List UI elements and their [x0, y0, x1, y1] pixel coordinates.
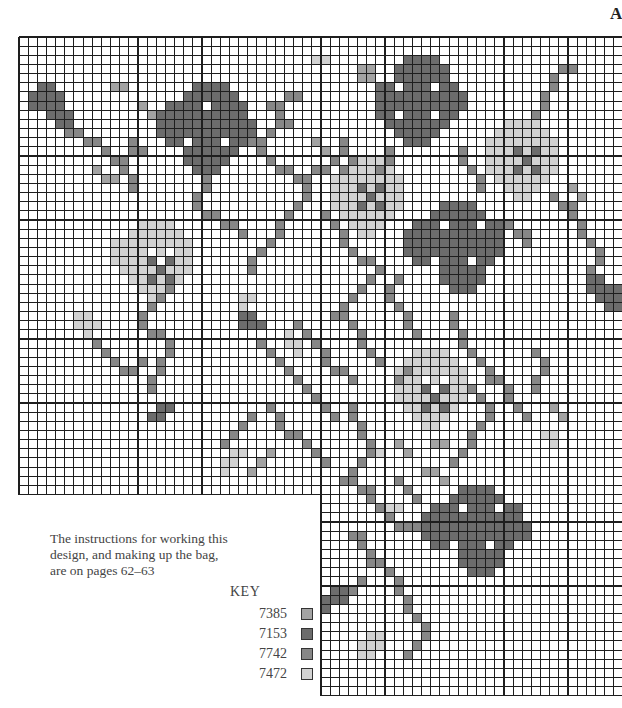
key-item: 7742 — [259, 644, 313, 664]
key-item: 7153 — [259, 624, 313, 644]
swatch-icon — [301, 668, 313, 680]
key-code: 7153 — [259, 626, 297, 642]
key-item: 7472 — [259, 664, 313, 684]
key-item: 7385 — [259, 604, 313, 624]
instructions-text: The instructions for working this design… — [50, 531, 230, 579]
swatch-icon — [301, 648, 313, 660]
key-code: 7472 — [259, 666, 297, 682]
key-code: 7385 — [259, 606, 297, 622]
swatch-icon — [301, 628, 313, 640]
key-code: 7742 — [259, 646, 297, 662]
swatch-icon — [301, 608, 313, 620]
color-key: KEY 7385 7153 7742 7472 — [230, 584, 313, 684]
key-title: KEY — [230, 584, 313, 600]
